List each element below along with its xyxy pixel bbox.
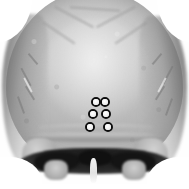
- fiducial-marker-core: [90, 111, 96, 117]
- fiducial-marker[interactable]: [88, 109, 98, 119]
- fiducial-marker-layer: [0, 0, 189, 189]
- fiducial-marker-core: [103, 111, 109, 117]
- fiducial-marker[interactable]: [101, 109, 111, 119]
- fiducial-marker-core: [102, 99, 108, 105]
- medical-image-figure: Posterior skull (occipital) view 3D CT s…: [0, 0, 189, 189]
- fiducial-marker-core: [105, 124, 111, 130]
- fiducial-marker[interactable]: [85, 122, 95, 132]
- fiducial-marker[interactable]: [103, 122, 113, 132]
- fiducial-marker-core: [87, 124, 93, 130]
- fiducial-marker[interactable]: [100, 97, 110, 107]
- fiducial-marker-core: [93, 99, 99, 105]
